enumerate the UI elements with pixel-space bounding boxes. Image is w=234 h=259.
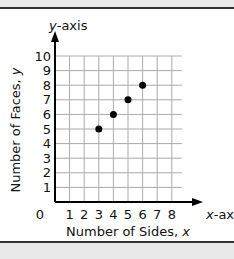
data-points xyxy=(95,82,146,133)
data-point xyxy=(125,96,132,103)
x-tick-label: 3 xyxy=(95,207,103,222)
y-tick-label: 3 xyxy=(43,151,51,166)
x-tick-label: 2 xyxy=(80,207,88,222)
y-tick-label: 4 xyxy=(43,136,51,151)
x-tick-label: 1 xyxy=(65,207,73,222)
bottom-border-band xyxy=(0,241,234,259)
y-tick-label: 10 xyxy=(34,49,51,64)
x-tick-label: 8 xyxy=(168,207,176,222)
y-tick-label: 9 xyxy=(43,63,51,78)
x-tick-label: 4 xyxy=(109,207,117,222)
x-tick-label: 5 xyxy=(124,207,132,222)
grid-lines xyxy=(55,56,182,202)
x-axis-arrow-icon xyxy=(192,198,203,206)
x-axis-name: x-axis xyxy=(205,207,234,222)
y-tick-label: 5 xyxy=(43,122,51,137)
data-point xyxy=(110,111,117,118)
y-tick-label: 7 xyxy=(43,92,51,107)
y-axis-title: Number of Faces, y xyxy=(8,67,23,192)
axes xyxy=(51,31,203,206)
y-tick-label: 6 xyxy=(43,107,51,122)
x-tick-label: 6 xyxy=(138,207,146,222)
x-axis-title: Number of Sides, x xyxy=(66,224,190,239)
y-tick-label: 8 xyxy=(43,78,51,93)
x-tick-labels: 12345678 xyxy=(65,207,175,222)
data-point xyxy=(95,126,102,133)
data-point xyxy=(139,82,146,89)
origin-label: 0 xyxy=(36,207,44,222)
y-tick-label: 1 xyxy=(43,180,51,195)
y-tick-label: 2 xyxy=(43,165,51,180)
x-tick-label: 7 xyxy=(153,207,161,222)
y-axis-name: y-axis xyxy=(48,18,88,33)
y-tick-labels: 12345678910 xyxy=(34,49,51,195)
